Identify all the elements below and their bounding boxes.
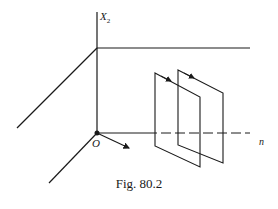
origin-label: O	[92, 137, 100, 149]
front-plane-circulation-arrow	[161, 76, 171, 81]
x2-axis-label: X2	[100, 10, 110, 25]
back-plane-circulation-arrow	[184, 73, 194, 78]
n-axis-label: n	[259, 136, 264, 147]
figure-caption: Fig. 80.2	[0, 176, 278, 192]
figure-canvas: X2 O n Fig. 80.2	[0, 0, 278, 209]
normal-arrow	[97, 133, 129, 148]
upper-diagonal-line	[17, 48, 97, 128]
